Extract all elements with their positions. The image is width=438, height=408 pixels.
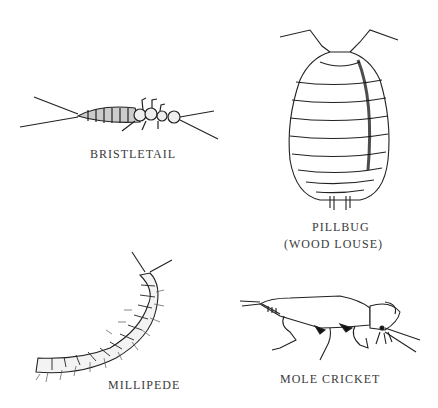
bristletail-label: BRISTLETAIL [90,147,176,162]
millipede-figure: MILLIPEDE [0,230,220,408]
bristletail-figure: BRISTLETAIL [0,0,220,170]
pillbug-figure: PILLBUG (WOOD LOUSE) [250,0,438,270]
pillbug-label-line1: PILLBUG [312,220,370,235]
mole-cricket-icon [220,270,438,408]
mole-cricket-label: MOLE CRICKET [280,372,380,387]
pillbug-label-line2: (WOOD LOUSE) [284,237,383,252]
mole-cricket-figure: MOLE CRICKET [220,270,438,408]
bristletail-icon [0,0,220,170]
millipede-label: MILLIPEDE [108,378,180,393]
